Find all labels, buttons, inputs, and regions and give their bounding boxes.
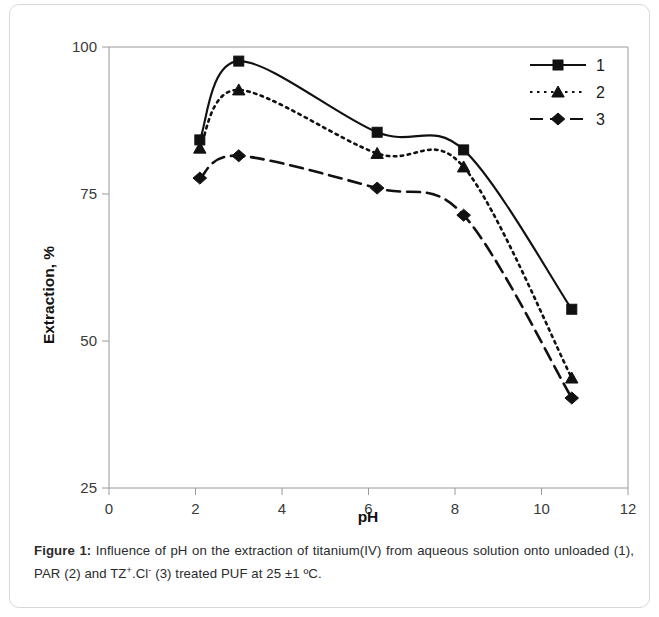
y-tick-label: 100	[72, 38, 97, 55]
x-axis-title: pH	[358, 508, 379, 525]
series-1	[195, 56, 577, 314]
x-tick-label: 4	[278, 500, 286, 517]
chart-plot-area: 255075100 024681012 Extraction, % pH 123	[10, 5, 651, 529]
legend-entry-1: 1	[530, 57, 605, 74]
extraction-vs-ph-line-chart: 255075100 024681012 Extraction, % pH 123	[10, 5, 651, 529]
y-tick-label: 75	[80, 185, 97, 202]
data-point-1	[459, 145, 469, 155]
legend-label-1: 1	[596, 57, 605, 74]
series-3	[193, 150, 579, 404]
data-point-2	[566, 372, 578, 383]
data-point-1	[372, 127, 382, 137]
legend-marker-3	[551, 113, 565, 125]
legend-label-2: 2	[596, 84, 605, 101]
legend-entry-2: 2	[530, 84, 605, 101]
x-tick-label: 12	[620, 500, 637, 517]
legend-label-3: 3	[596, 111, 605, 128]
data-point-3	[232, 150, 246, 162]
data-point-3	[565, 392, 579, 404]
figure-caption: Figure 1: Influence of pH on the extract…	[34, 541, 634, 583]
caption-tail: (3) treated PUF at 25 ±1 ºC.	[151, 566, 321, 581]
y-axis-ticks: 255075100	[72, 38, 109, 496]
caption-middle: .Cl	[132, 566, 148, 581]
data-point-1	[567, 304, 577, 314]
legend-entry-3: 3	[530, 111, 605, 128]
series-2	[194, 84, 578, 383]
x-tick-label: 2	[191, 500, 199, 517]
y-tick-label: 25	[80, 479, 97, 496]
caption-label: Figure 1:	[34, 543, 91, 558]
data-point-1	[234, 56, 244, 66]
y-axis-title: Extraction, %	[40, 246, 57, 344]
chart-series-layer	[193, 56, 579, 404]
caption-text: Influence of pH on the extraction of tit…	[34, 543, 634, 581]
x-tick-label: 10	[533, 500, 550, 517]
figure-card: 255075100 024681012 Extraction, % pH 123…	[9, 4, 650, 608]
x-tick-label: 8	[451, 500, 459, 517]
y-tick-label: 50	[80, 332, 97, 349]
chart-legend: 123	[530, 57, 605, 128]
legend-marker-2	[552, 86, 564, 97]
x-tick-label: 0	[105, 500, 113, 517]
legend-marker-1	[553, 60, 563, 70]
data-point-3	[370, 182, 384, 194]
series-line-3	[200, 156, 572, 398]
series-line-1	[200, 61, 572, 309]
series-line-2	[200, 90, 572, 378]
chart-axes	[109, 47, 628, 488]
